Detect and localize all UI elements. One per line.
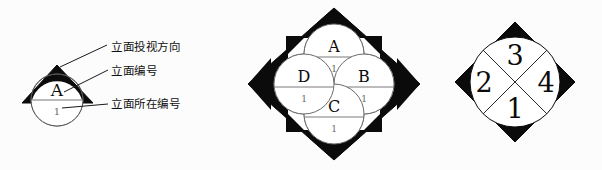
elevation-letter: A [50, 80, 64, 100]
circle-bottom-sheet-number-2: 1 [331, 124, 337, 134]
quadrant-number-right: 4 [537, 67, 554, 98]
elevation-symbols-drawing: A 1 A 1 B 1 [0, 0, 602, 170]
four-way-elevation-index: A 1 B 1 C 1 D 1 [248, 8, 420, 160]
legend-label-number: 立面编号 [111, 64, 157, 78]
figure-canvas: A 1 A 1 B 1 [0, 0, 602, 170]
circle-left-letter-2: D [298, 67, 311, 86]
quadrant-elevation-index: 3 4 1 2 [455, 22, 575, 142]
quadrant-number-bottom: 1 [506, 93, 523, 124]
quadrant-number-top: 3 [506, 40, 523, 71]
leader-line-direction [60, 45, 107, 67]
arrow-right [397, 58, 420, 110]
legend-label-location: 立面所在编号 [111, 97, 181, 111]
quadrant-number-left: 2 [475, 67, 492, 98]
legend-label-direction: 立面投视方向 [111, 40, 181, 54]
circle-left-sheet-number-2: 1 [301, 94, 307, 104]
circle-top-letter-2: A [327, 37, 340, 56]
single-elevation-index: A 1 [22, 45, 108, 126]
circle-right-letter-2: B [358, 67, 370, 86]
sheet-number: 1 [54, 106, 60, 117]
arrow-left [248, 58, 271, 110]
